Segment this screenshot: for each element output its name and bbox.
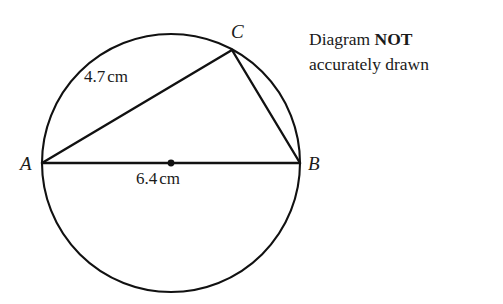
- measurement-ab-value: 6.4: [136, 169, 157, 188]
- centre-point-dot: [168, 160, 175, 167]
- chord-ac-line: [42, 50, 232, 163]
- vertex-label-b: B: [308, 154, 320, 173]
- chord-cb-line: [232, 50, 300, 163]
- note-emphasis-text: NOT: [375, 29, 413, 49]
- measurement-ab-unit: cm: [159, 169, 180, 188]
- geometry-diagram: A B C 4.7cm 6.4cm Diagram NOT accurately…: [0, 0, 503, 304]
- vertex-label-c: C: [231, 22, 244, 41]
- note-line-two: accurately drawn: [309, 52, 499, 77]
- not-accurately-drawn-note: Diagram NOT accurately drawn: [309, 27, 499, 77]
- note-prefix-text: Diagram: [309, 29, 375, 49]
- measurement-ac-value: 4.7: [84, 67, 105, 86]
- vertex-label-a: A: [20, 154, 32, 173]
- measurement-label-ac: 4.7cm: [84, 68, 128, 85]
- note-line-one: Diagram NOT: [309, 27, 499, 52]
- measurement-label-ab: 6.4cm: [136, 170, 180, 187]
- measurement-ac-unit: cm: [107, 67, 128, 86]
